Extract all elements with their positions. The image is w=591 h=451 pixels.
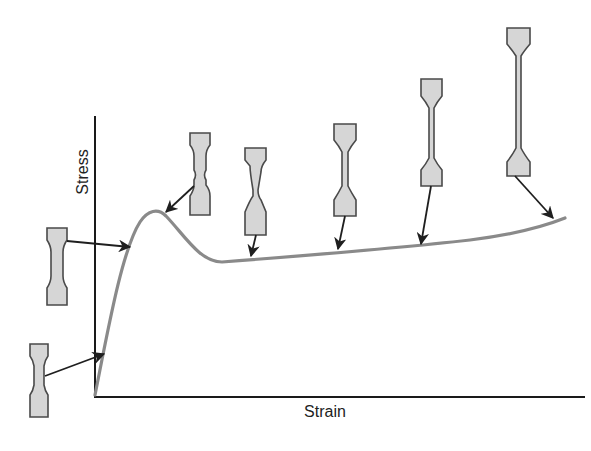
specimen-pre-yield	[47, 228, 67, 305]
y-axis-label: Stress	[74, 149, 91, 194]
arrow-near-fracture	[515, 176, 553, 218]
arrow-neck-propagation-1	[338, 216, 345, 249]
stress-strain-diagram: Stress Strain	[0, 0, 591, 451]
arrow-pre-yield	[67, 241, 130, 247]
arrow-neck-propagation-2	[421, 186, 431, 244]
stress-strain-curve	[95, 211, 565, 395]
x-axis-label: Strain	[304, 403, 346, 420]
specimen-undeformed	[30, 344, 48, 417]
arrow-lower-yield	[251, 235, 256, 256]
specimen-lower-yield	[245, 148, 266, 235]
specimen-neck-propagation-2	[421, 79, 442, 186]
specimen-neck-propagation-1	[334, 124, 356, 216]
specimen-near-fracture	[507, 28, 530, 176]
specimen-neck-forming	[190, 133, 210, 215]
